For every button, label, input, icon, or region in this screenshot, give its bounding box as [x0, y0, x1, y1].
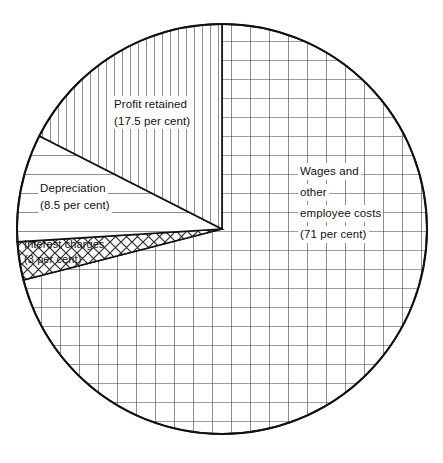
pie-slices — [17, 24, 427, 434]
pie-chart: Profit retained(17.5 per cent) Depreciat… — [0, 0, 443, 463]
pie-chart-canvas — [0, 0, 443, 463]
